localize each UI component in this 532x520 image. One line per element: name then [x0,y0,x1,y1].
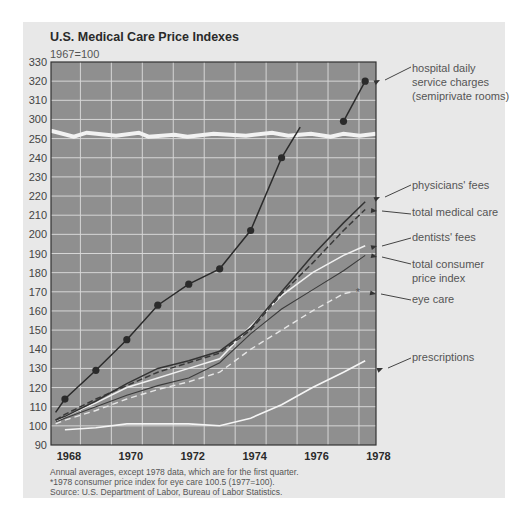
label-dentists: dentists' fees [371,231,477,250]
y-tick-label: 110 [29,401,47,413]
y-tick-label: 220 [29,190,47,202]
annotation-text: eye care [412,293,454,305]
data-marker [154,302,161,309]
line-chart: 3303203103002502402302202102001901801701… [0,0,532,520]
label-prescriptions: prescriptions [377,351,475,373]
y-tick-label: 100 [29,420,47,432]
asterisk-marker: * [356,286,361,298]
y-tick-label: 230 [29,171,47,183]
annotation-text: physicians' fees [412,179,490,191]
y-tick-label: 210 [29,209,47,221]
y-tick-label: 310 [29,94,47,106]
label-cpi: total consumerprice index [371,253,485,284]
annotation-text: service charges [412,76,490,88]
y-tick-label: 170 [29,286,47,298]
chart-notes: Annual averages, except 1978 data, which… [50,467,299,497]
y-tick-label: 250 [29,133,47,145]
data-marker [216,265,223,272]
label-physicians: physicians' fees [374,179,490,202]
annotation-text: dentists' fees [412,231,476,243]
y-tick-label: 200 [29,228,47,240]
x-tick-label: 1972 [180,450,204,462]
x-tick-label: 1968 [57,450,81,462]
data-marker [61,395,68,402]
y-tick-label: 90 [35,439,47,451]
annotation-text: (semiprivate rooms) [412,90,509,102]
x-tick-label: 1978 [366,450,390,462]
y-tick-label: 160 [29,305,47,317]
label-eye-care: eye care [370,290,455,305]
data-marker [278,154,285,161]
x-tick-label: 1970 [119,450,143,462]
label-hospital: hospital dailyservice charges(semiprivat… [374,62,510,102]
y-tick-label: 140 [29,343,47,355]
annotation-text: price index [412,272,466,284]
y-tick-label: 180 [29,267,47,279]
data-marker [362,78,369,85]
data-marker [247,227,254,234]
y-tick-label: 320 [29,75,47,87]
y-tick-label: 240 [29,152,47,164]
note-line: Source: U.S. Department of Labor, Bureau… [50,487,299,497]
data-marker [92,367,99,374]
note-line: *1978 consumer price index for eye care … [50,477,299,487]
x-tick-label: 1976 [304,450,328,462]
data-marker [340,118,347,125]
note-line: Annual averages, except 1978 data, which… [50,467,299,477]
y-tick-label: 330 [29,56,47,68]
y-tick-label: 120 [29,382,47,394]
arrow-icon [377,368,384,373]
y-tick-label: 150 [29,324,47,336]
y-tick-label: 190 [29,248,47,260]
annotation-text: total consumer [412,258,484,270]
x-tick-label: 1974 [242,450,267,462]
data-marker [123,336,130,343]
y-tick-label: 300 [29,113,47,125]
annotation-text: hospital daily [412,62,476,74]
y-tick-label: 130 [29,362,47,374]
annotation-text: prescriptions [412,351,475,363]
label-total-medical: total medical care [371,206,498,218]
data-marker [185,281,192,288]
annotation-text: total medical care [412,206,498,218]
